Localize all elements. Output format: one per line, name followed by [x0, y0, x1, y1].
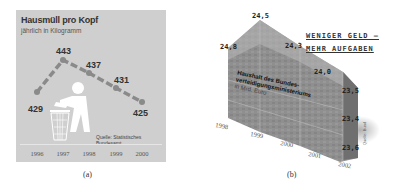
x-tick: 1996: [31, 150, 44, 157]
value-label: 431: [114, 75, 129, 85]
x-tick: 1997: [57, 150, 70, 157]
value-label: 24,0: [314, 68, 331, 76]
x-axis-line: [20, 144, 162, 145]
x-tick: 1999: [250, 130, 264, 139]
value-label: 429: [28, 104, 43, 114]
value-label: 437: [86, 60, 101, 70]
x-tick: 2000: [280, 139, 294, 148]
x-tick: 2000: [136, 150, 149, 157]
value-label: 23,5: [342, 87, 359, 95]
household-waste-chart: Hausmüll pro Kopf jährlich in Kilogramm …: [16, 10, 166, 162]
x-tick: 1998: [215, 121, 229, 130]
side-note: Quelle: Bund: [362, 122, 367, 145]
defense-budget-3d-chart: 24,8 24,5 24,3 24,0 23,5 23,4 23,6 Haush…: [200, 0, 394, 170]
value-label: 23,6: [342, 144, 359, 152]
caption-a: (a): [83, 170, 92, 179]
value-label: 24,3: [285, 42, 302, 50]
x-tick: 2002: [338, 160, 352, 169]
x-axis-labels: 1996 1997 1998 1999 2000: [16, 150, 166, 160]
value-label: 443: [56, 46, 71, 56]
headline-line2: MEHR AUFGABEN: [306, 43, 379, 56]
chart-headline: WENIGER GELD – MEHR AUFGABEN: [306, 30, 379, 56]
person-throwing-trash-in-bin-icon: [50, 82, 90, 140]
x-tick: 1999: [110, 150, 123, 157]
value-label: 24,5: [252, 12, 269, 20]
headline-line1: WENIGER GELD –: [306, 30, 379, 43]
x-tick: 1998: [83, 150, 96, 157]
value-label: 425: [133, 108, 148, 118]
value-label: 24,8: [220, 43, 237, 51]
x-tick: 2001: [308, 150, 322, 159]
value-label: 23,4: [342, 115, 359, 123]
caption-b: (b): [287, 170, 296, 179]
